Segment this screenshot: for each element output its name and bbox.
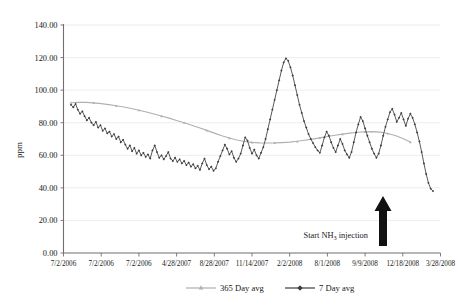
data-point-7-day	[355, 131, 357, 133]
y-axis-tick-labels: 0.0020.0040.0060.0080.00100.00120.00140.…	[34, 21, 57, 258]
data-point-7-day	[289, 66, 291, 68]
data-point-7-day	[387, 118, 389, 120]
data-point-7-day	[321, 144, 323, 146]
data-point-7-day	[221, 149, 223, 151]
x-tick-label: 7/2/2006	[88, 260, 114, 268]
annotation-label: Start NH3 injection	[303, 231, 368, 241]
data-point-7-day	[405, 125, 407, 127]
data-point-7-day	[423, 162, 425, 164]
data-point-7-day	[298, 104, 300, 106]
legend-item-365-day-avg: 365 Day avg	[186, 283, 265, 293]
data-point-7-day	[301, 112, 303, 114]
legend-label-365: 365 Day avg	[220, 283, 265, 293]
x-tick-label: 7/2/2006	[126, 260, 152, 268]
legend-item-7-day-avg: 7 Day avg	[285, 283, 355, 293]
chart-figure: 0.0020.0040.0060.0080.00100.00120.00140.…	[0, 0, 461, 307]
x-tick-label: 4/28/2007	[162, 260, 192, 268]
line-chart: 0.0020.0040.0060.0080.00100.00120.00140.…	[0, 0, 461, 307]
y-tick-label: 80.00	[39, 119, 58, 128]
data-point-7-day	[382, 135, 384, 137]
data-point-7-day	[156, 151, 158, 153]
y-axis-title: ppm	[14, 142, 24, 158]
data-point-7-day	[271, 109, 273, 111]
data-point-7-day	[402, 118, 404, 120]
data-point-7-day	[280, 69, 282, 71]
legend-marker-diamond	[297, 285, 302, 291]
data-point-7-day	[217, 161, 219, 163]
data-point-7-day	[242, 144, 244, 146]
data-point-7-day	[278, 79, 280, 81]
data-point-7-day	[262, 146, 264, 148]
series-7-day-avg-line	[71, 58, 433, 191]
data-point-7-day	[384, 126, 386, 128]
data-point-7-day	[368, 141, 370, 143]
y-tick-label: 20.00	[39, 216, 58, 225]
data-point-7-day	[305, 126, 307, 128]
x-axis-tick-labels: 7/2/20067/2/20067/2/20064/28/20078/28/20…	[51, 260, 456, 268]
data-point-7-day	[264, 138, 266, 140]
data-point-7-day	[269, 118, 271, 120]
y-tick-label: 60.00	[39, 151, 58, 160]
data-point-7-day	[294, 84, 296, 86]
y-tick-label: 0.00	[43, 249, 58, 258]
data-point-7-day	[427, 182, 429, 184]
y-tick-label: 140.00	[34, 21, 57, 30]
data-point-7-day	[414, 123, 416, 125]
data-point-7-day	[418, 140, 420, 142]
data-point-7-day	[416, 131, 418, 133]
data-point-7-day	[249, 147, 251, 149]
annotation-start-nh3-injection: Start NH3 injection	[303, 196, 391, 246]
data-point-7-day	[296, 94, 298, 96]
y-tick-label: 120.00	[34, 54, 57, 63]
x-tick-label: 12/18/2008	[386, 260, 419, 268]
data-point-7-day	[267, 128, 269, 130]
data-point-7-day	[353, 141, 355, 143]
data-point-7-day	[421, 151, 423, 153]
series-7-day-avg-markers	[70, 57, 434, 192]
data-point-7-day	[350, 151, 352, 153]
x-tick-label: 2/2/2008	[277, 260, 303, 268]
x-tick-label: 3/28/2008	[426, 260, 456, 268]
chart-legend: 365 Day avg 7 Day avg	[186, 283, 355, 293]
legend-label-7: 7 Day avg	[319, 283, 355, 293]
data-point-7-day	[425, 173, 427, 175]
up-arrow-icon	[375, 196, 392, 246]
data-point-7-day	[357, 123, 359, 125]
y-tick-label: 100.00	[34, 86, 57, 95]
data-point-7-day	[393, 113, 395, 115]
data-point-7-day	[292, 74, 294, 76]
y-tick-label: 40.00	[39, 184, 58, 193]
data-point-7-day	[303, 120, 305, 122]
series-7-day-avg	[70, 57, 434, 192]
x-tick-label: 9/9/2008	[352, 260, 378, 268]
x-tick-label: 11/14/2007	[236, 260, 269, 268]
data-point-7-day	[330, 141, 332, 143]
x-tick-label: 7/2/2006	[51, 260, 77, 268]
data-point-7-day	[364, 127, 366, 129]
data-point-7-day	[260, 152, 262, 154]
x-tick-label: 8/28/2007	[200, 260, 230, 268]
data-point-7-day	[380, 144, 382, 146]
x-tick-label: 8/1/2008	[315, 260, 341, 268]
gridlines	[64, 25, 441, 220]
data-point-7-day	[273, 99, 275, 101]
data-point-7-day	[366, 135, 368, 137]
data-point-7-day	[337, 144, 339, 146]
data-point-7-day	[276, 89, 278, 91]
